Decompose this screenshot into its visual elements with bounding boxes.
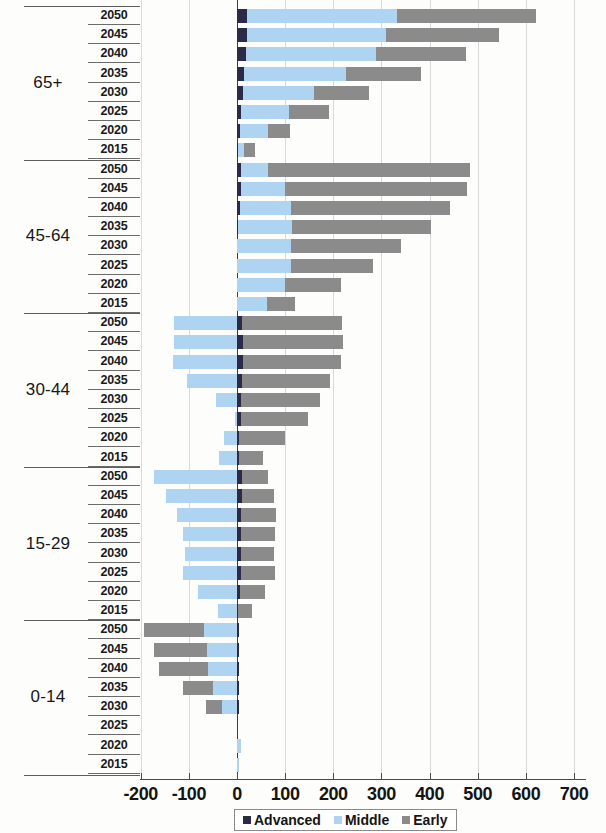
x-axis-tick — [141, 773, 142, 780]
legend-label: Advanced — [254, 812, 321, 828]
group-separator — [24, 775, 140, 776]
bar-segment-middle — [222, 700, 237, 714]
bar-segment-middle — [237, 259, 291, 273]
bar-segment-middle — [224, 431, 237, 445]
bar-segment-early — [239, 431, 285, 445]
bar-segment-early — [144, 623, 204, 637]
legend-label: Middle — [345, 812, 389, 828]
bar-segment-early — [291, 201, 450, 215]
bar-row — [140, 218, 586, 236]
age-group-label-30-44: 30-44 — [0, 380, 96, 400]
bar-segment-middle — [246, 47, 376, 61]
bar-row — [140, 391, 586, 409]
bar-segment-advanced — [237, 28, 247, 42]
x-axis-tick — [237, 773, 238, 780]
year-label: 2025 — [88, 717, 140, 735]
bar-row — [140, 353, 586, 371]
legend-label: Early — [413, 812, 447, 828]
year-label: 2020 — [88, 429, 140, 447]
bar-row — [140, 7, 586, 25]
bar-segment-early — [241, 393, 320, 407]
bar-segment-middle — [216, 393, 237, 407]
bar-segment-middle — [247, 28, 387, 42]
bar-segment-early — [239, 451, 263, 465]
bar-segment-middle — [219, 451, 237, 465]
bar-segment-advanced — [237, 700, 239, 714]
bar-segment-middle — [185, 547, 237, 561]
year-label: 2015 — [88, 141, 140, 159]
bar-segment-early — [241, 566, 275, 580]
year-label: 2015 — [88, 295, 140, 313]
bar-segment-early — [243, 355, 341, 369]
bar-segment-early — [285, 182, 467, 196]
year-label: 2050 — [88, 621, 140, 639]
bar-row — [140, 737, 586, 755]
bar-segment-middle — [247, 9, 397, 23]
bar-row — [140, 84, 586, 102]
year-label: 2025 — [88, 410, 140, 428]
bar-segment-middle — [218, 604, 237, 618]
age-group-label-45-64: 45-64 — [0, 226, 96, 246]
bar-row — [140, 276, 586, 294]
bar-row — [140, 122, 586, 140]
bar-row — [140, 468, 586, 486]
bar-segment-advanced — [237, 9, 247, 23]
plot-area — [140, 0, 586, 780]
bar-row — [140, 333, 586, 351]
bar-segment-early — [268, 163, 469, 177]
bar-segment-middle — [177, 508, 237, 522]
year-label: 2035 — [88, 525, 140, 543]
bar-row — [140, 449, 586, 467]
bar-segment-middle — [243, 86, 314, 100]
bar-segment-middle — [154, 470, 237, 484]
x-axis-tick — [430, 773, 431, 780]
legend-item-advanced[interactable]: Advanced — [243, 812, 321, 828]
year-label: 2040 — [88, 353, 140, 371]
bar-row — [140, 506, 586, 524]
bar-segment-early — [376, 47, 467, 61]
bar-segment-early — [291, 259, 373, 273]
bar-segment-middle — [235, 412, 237, 426]
bar-segment-early — [242, 316, 342, 330]
legend-item-middle[interactable]: Middle — [334, 812, 389, 828]
bar-segment-early — [292, 220, 430, 234]
bar-row — [140, 621, 586, 639]
bar-row — [140, 564, 586, 582]
bar-row — [140, 199, 586, 217]
year-label: 2040 — [88, 506, 140, 524]
bar-row — [140, 602, 586, 620]
bar-row — [140, 26, 586, 44]
bar-segment-middle — [166, 489, 237, 503]
bar-segment-advanced — [237, 643, 239, 657]
legend-item-early[interactable]: Early — [402, 812, 447, 828]
x-axis-tick — [285, 773, 286, 780]
year-label: 2015 — [88, 756, 140, 774]
x-axis-tick — [526, 773, 527, 780]
bar-segment-early — [240, 585, 265, 599]
bar-segment-early — [267, 297, 295, 311]
year-label: 2045 — [88, 333, 140, 351]
bar-segment-early — [285, 278, 340, 292]
bar-row — [140, 429, 586, 447]
bar-segment-middle — [183, 527, 237, 541]
bar-segment-middle — [208, 662, 237, 676]
bar-segment-middle — [207, 643, 237, 657]
year-label: 2035 — [88, 65, 140, 83]
bar-segment-early — [243, 335, 343, 349]
age-group-label-15-29: 15-29 — [0, 534, 96, 554]
bar-row — [140, 756, 586, 774]
year-label: 2030 — [88, 545, 140, 563]
legend-swatch-icon — [402, 816, 410, 824]
bar-segment-middle — [174, 316, 237, 330]
year-label: 2020 — [88, 583, 140, 601]
bar-segment-middle — [237, 739, 241, 753]
category-label-column: 65+2050204520402035203020252020201545-64… — [0, 0, 140, 780]
bar-row — [140, 698, 586, 716]
bar-row — [140, 45, 586, 63]
bar-segment-middle — [237, 297, 267, 311]
bar-segment-middle — [204, 623, 237, 637]
bar-segment-early — [314, 86, 369, 100]
age-group-label-65plus: 65+ — [0, 73, 96, 93]
chart-legend: AdvancedMiddleEarly — [234, 809, 457, 831]
year-label: 2045 — [88, 180, 140, 198]
